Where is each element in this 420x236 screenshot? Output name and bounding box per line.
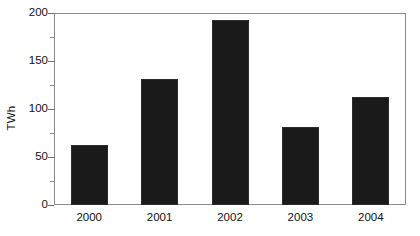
x-tick-label-2001: 2001 [125,211,195,224]
x-tick-label-2003: 2003 [265,211,335,224]
bar-2003 [282,127,319,205]
x-tick-label-2000: 2000 [54,211,124,224]
bar-2001 [141,79,178,205]
bar-chart: TWh 050100150200 20002001200220032004 [0,0,420,236]
bars-layer: 20002001200220032004 [0,0,420,236]
x-tick-label-2002: 2002 [195,211,265,224]
bar-2002 [212,20,249,205]
bar-2004 [352,97,389,205]
x-tick-label-2004: 2004 [336,211,406,224]
bar-2000 [71,145,108,205]
